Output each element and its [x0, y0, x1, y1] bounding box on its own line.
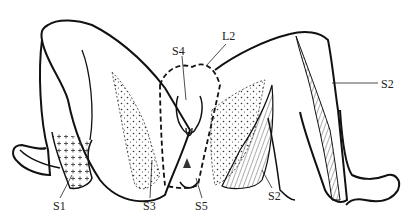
label-s3: S3 — [143, 200, 156, 212]
label-s2-upper: S2 — [381, 78, 394, 90]
label-s5: S5 — [195, 200, 208, 212]
label-s1: S1 — [53, 200, 66, 212]
label-s4: S4 — [172, 45, 185, 57]
s3-region-left — [112, 72, 160, 189]
label-l2: L2 — [222, 30, 235, 42]
dermatome-figure — [0, 0, 411, 223]
label-s2-lower: S2 — [268, 190, 281, 202]
